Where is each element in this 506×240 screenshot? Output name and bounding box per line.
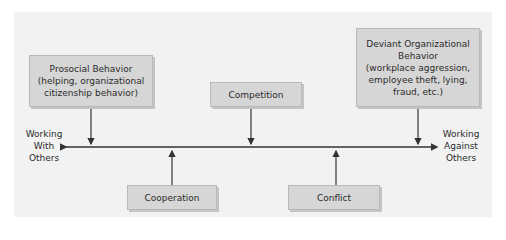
label-line: Working xyxy=(438,128,484,140)
box-detail: employee theft, lying, xyxy=(369,74,468,86)
competition-box: Competition xyxy=(210,82,302,107)
cooperation-box: Cooperation xyxy=(127,185,217,210)
label-line: Against xyxy=(438,140,484,152)
box-title: Conflict xyxy=(317,192,351,204)
box-title: Cooperation xyxy=(144,192,199,204)
label-line: With xyxy=(24,140,64,152)
box-detail: citizenship behavior) xyxy=(44,87,138,99)
box-title: Competition xyxy=(228,89,283,101)
box-detail: fraud, etc.) xyxy=(393,86,443,98)
conflict-box: Conflict xyxy=(288,185,380,210)
prosocial-behavior-box: Prosocial Behavior (helping, organizatio… xyxy=(29,55,153,107)
working-against-others-label: Working Against Others xyxy=(438,128,484,164)
label-line: Working xyxy=(24,128,64,140)
box-title: Deviant Organizational xyxy=(366,38,469,50)
box-title: Prosocial Behavior xyxy=(50,63,133,75)
label-line: Others xyxy=(438,152,484,164)
deviant-behavior-box: Deviant Organizational Behavior (workpla… xyxy=(356,28,480,107)
box-detail: (workplace aggression, xyxy=(366,62,470,74)
working-with-others-label: Working With Others xyxy=(24,128,64,164)
box-detail: (helping, organizational xyxy=(38,75,145,87)
box-title: Behavior xyxy=(398,50,438,62)
label-line: Others xyxy=(24,152,64,164)
